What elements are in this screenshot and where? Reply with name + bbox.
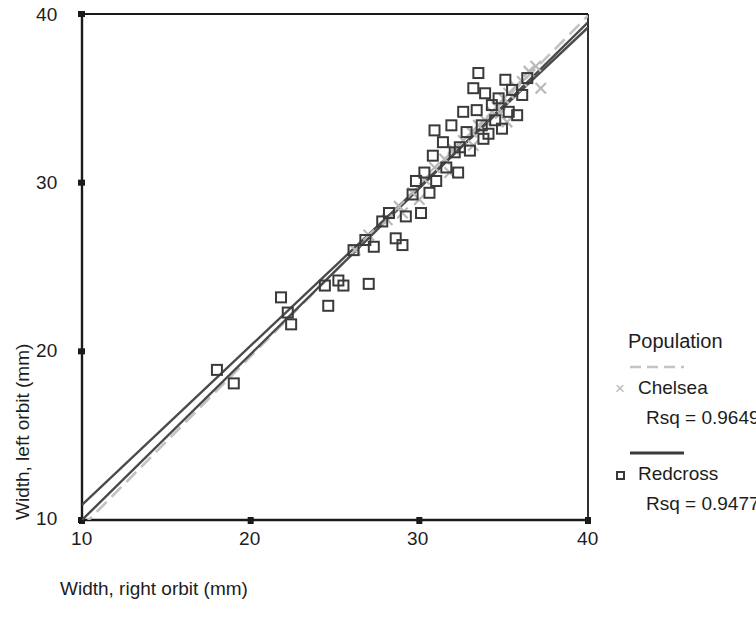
x-tick-label-10: 10 [71, 528, 93, 550]
legend-label-redcross: Redcross [632, 463, 718, 485]
x-tick-label-30: 30 [407, 528, 429, 550]
series-redcross-points [212, 68, 532, 388]
data-point-chelsea [536, 83, 546, 93]
redcross-fit-line [82, 27, 588, 504]
chelsea-marker-x-icon: × [608, 380, 632, 397]
legend-entry-chelsea[interactable]: × Chelsea Rsq = 0.9649 [608, 365, 756, 429]
data-point-redcross [438, 137, 448, 147]
data-point-redcross [276, 292, 286, 302]
x-tick-label-40: 40 [577, 528, 599, 550]
data-point-redcross [424, 188, 434, 198]
redcross-marker-square-icon [608, 467, 632, 482]
y-tick-label-30: 30 [36, 172, 58, 194]
data-point-redcross [364, 279, 374, 289]
data-point-redcross [472, 105, 482, 115]
data-point-redcross [397, 240, 407, 250]
legend-title: Population [628, 330, 756, 353]
y-tick-label-10: 10 [36, 508, 58, 530]
data-point-redcross [286, 319, 296, 329]
data-point-redcross [458, 107, 468, 117]
legend-entry-redcross[interactable]: Redcross Rsq = 0.9477 [608, 451, 756, 515]
data-point-redcross [416, 208, 426, 218]
legend-rsq-chelsea: Rsq = 0.9649 [646, 407, 756, 429]
x-tick-label-20: 20 [239, 528, 261, 550]
x-axis-title: Width, right orbit (mm) [60, 578, 248, 600]
y-tick-label-20: 20 [36, 340, 58, 362]
data-point-redcross [229, 378, 239, 388]
legend: Population × Chelsea Rsq = 0.9649 Redcro… [608, 330, 756, 517]
data-point-redcross [468, 83, 478, 93]
scatter-plot-figure: 40 30 20 10 10 20 30 40 Width, left orbi… [0, 0, 756, 618]
regression-lines [82, 16, 588, 527]
data-point-redcross [430, 125, 440, 135]
data-point-redcross [431, 176, 441, 186]
data-point-redcross [323, 301, 333, 311]
y-tick-label-40: 40 [36, 4, 58, 26]
legend-label-chelsea: Chelsea [632, 377, 708, 399]
data-point-redcross [473, 68, 483, 78]
chart-canvas [0, 0, 756, 618]
data-point-redcross [500, 75, 510, 85]
data-point-redcross [446, 120, 456, 130]
chelsea-line-sample [630, 365, 684, 369]
data-point-redcross [428, 151, 438, 161]
legend-rsq-redcross: Rsq = 0.9477 [646, 493, 756, 515]
plot-area [82, 16, 588, 527]
y-axis-title: Width, left orbit (mm) [12, 344, 34, 520]
data-point-redcross [391, 233, 401, 243]
redcross-line-sample [630, 451, 684, 455]
data-point-redcross [480, 88, 490, 98]
